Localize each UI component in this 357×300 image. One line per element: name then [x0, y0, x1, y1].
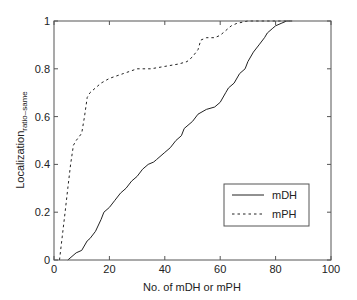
x-tick-label: 0 [51, 263, 57, 275]
x-tick-label: 100 [322, 263, 340, 275]
line-chart: 02040608010000.20.40.60.81 No. of mDH or… [0, 0, 357, 300]
y-axis-label: Localizationratio–same [14, 91, 29, 189]
x-tick-label: 80 [269, 263, 281, 275]
legend-label-mdh: mDH [272, 189, 297, 201]
x-tick-label: 40 [159, 263, 171, 275]
x-tick-label: 20 [103, 263, 115, 275]
y-tick-label: 0 [44, 254, 50, 266]
y-tick-label: 0.8 [35, 63, 50, 75]
y-tick-label: 0.4 [35, 158, 50, 170]
x-tick-label: 60 [214, 263, 226, 275]
y-tick-label: 0.2 [35, 206, 50, 218]
y-axis-label-subscript: ratio–same [20, 91, 29, 131]
x-axis-label: No. of mDH or mPH [143, 281, 241, 293]
legend: mDH mPH [224, 184, 309, 226]
y-axis-label-main: Localization [14, 131, 26, 189]
y-tick-label: 0.6 [35, 111, 50, 123]
axis-ticks: 02040608010000.20.40.60.81 [35, 15, 340, 275]
y-tick-label: 1 [44, 15, 50, 27]
legend-label-mph: mPH [272, 208, 297, 220]
